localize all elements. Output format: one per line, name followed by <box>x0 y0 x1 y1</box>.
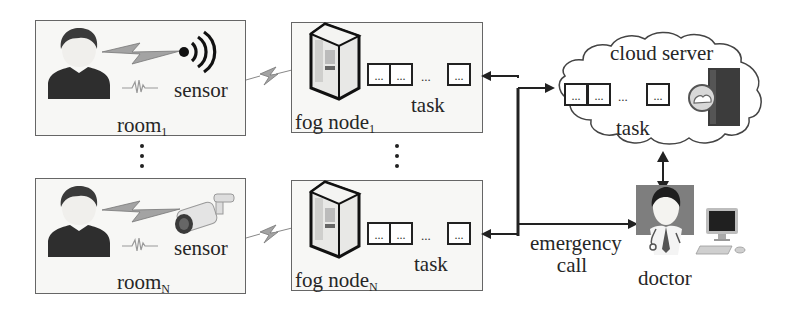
computer-icon <box>696 208 748 256</box>
doctor-label: doctor <box>638 268 692 289</box>
emergency-call-label: emergency call <box>530 232 614 276</box>
cloud-task-cell: ... <box>646 83 670 106</box>
cloud-task-label: task <box>616 118 650 139</box>
doctor-icon <box>636 185 696 255</box>
cloud-task-cell: ... <box>587 83 611 106</box>
cloud-server-tower-icon <box>688 68 740 126</box>
cloud-task-gap: ... <box>618 89 628 105</box>
cloud-server-label: cloud server <box>610 43 713 64</box>
cloud-task-cell: ... <box>564 83 588 106</box>
